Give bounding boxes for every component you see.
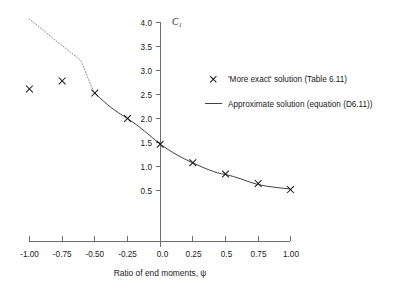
x-tick-label-0-0: 0.0 <box>157 250 169 259</box>
legend-entry-approximate[interactable]: Approximate solution (equation (D6.11)) <box>205 100 373 109</box>
x-tick-label-neg-0-25: -0.25 <box>118 250 137 259</box>
x-tick-label-1-00: 1.00 <box>283 250 299 259</box>
x-tick-label-0-5: 0.5 <box>221 250 233 259</box>
data-point-marker <box>189 159 196 166</box>
x-axis-tick-labels: -1.00 -0.75 -0.50 -0.25 0.0 0.25 0.5 0.7… <box>20 250 299 259</box>
legend-entry-more-exact[interactable]: 'More exact' solution (Table 6.11) <box>210 75 347 84</box>
x-tick-label-0-25: 0.25 <box>186 250 202 259</box>
legend-label-approximate: Approximate solution (equation (D6.11)) <box>228 100 373 109</box>
chart-figure: 4.0 3.5 3.0 2.5 2.0 1.5 1.0 0.5 C₁ -1.00 <box>0 0 410 293</box>
legend-label-more-exact: 'More exact' solution (Table 6.11) <box>228 75 347 84</box>
y-axis-tick-labels: 4.0 3.5 3.0 2.5 2.0 1.5 1.0 0.5 <box>141 19 153 196</box>
data-point-marker <box>91 90 98 97</box>
y-tick-label-3-5: 3.5 <box>141 43 153 52</box>
chart-legend: 'More exact' solution (Table 6.11) Appro… <box>205 75 373 109</box>
y-tick-label-0-5: 0.5 <box>141 187 153 196</box>
y-axis-title: C₁ <box>172 17 182 27</box>
data-point-marker <box>26 86 33 93</box>
y-tick-label-2-0: 2.0 <box>141 115 153 124</box>
x-axis-title: Ratio of end moments, ψ <box>114 268 207 278</box>
data-point-marker <box>124 115 131 122</box>
x-tick-label-neg-0-75: -0.75 <box>53 250 72 259</box>
y-tick-label-2-5: 2.5 <box>141 91 153 100</box>
chart-canvas: 4.0 3.5 3.0 2.5 2.0 1.5 1.0 0.5 C₁ -1.00 <box>0 0 410 293</box>
y-tick-label-1-0: 1.0 <box>141 163 153 172</box>
y-tick-label-4-0: 4.0 <box>141 19 153 28</box>
data-point-marker <box>287 186 294 193</box>
data-point-marker <box>255 180 262 187</box>
data-point-marker <box>59 78 66 85</box>
y-tick-label-3-0: 3.0 <box>141 67 153 76</box>
axes-group <box>29 22 290 247</box>
x-marker-icon <box>210 76 216 82</box>
x-axis-ticks <box>30 236 291 241</box>
y-tick-label-1-5: 1.5 <box>141 139 153 148</box>
x-tick-label-neg-1-00: -1.00 <box>20 250 39 259</box>
x-tick-label-neg-0-50: -0.50 <box>85 250 104 259</box>
x-tick-label-0-75: 0.75 <box>251 250 267 259</box>
